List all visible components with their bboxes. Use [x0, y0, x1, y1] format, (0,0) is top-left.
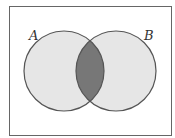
venn-diagram: A B — [0, 0, 175, 138]
set-a-label: A — [28, 28, 38, 43]
set-b-label: B — [143, 28, 154, 43]
